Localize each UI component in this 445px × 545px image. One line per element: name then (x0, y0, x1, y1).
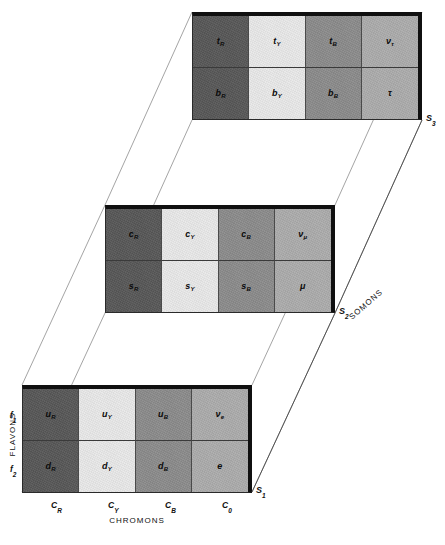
somons-axis-title: SOMONS (340, 281, 391, 327)
cell-label: bY (272, 89, 282, 98)
cell-nu-mu[interactable]: νμ (275, 209, 331, 261)
cell-b-Y[interactable]: bY (249, 68, 305, 120)
cell-c-R[interactable]: cR (106, 209, 162, 261)
somon-layer-1[interactable]: uR uY uB νe dR dY dB e (22, 385, 252, 493)
cell-label: dY (102, 462, 112, 471)
cell-label: dR (46, 462, 56, 471)
cell-label: dB (158, 462, 168, 471)
somon-marker-1: S1 (256, 485, 266, 497)
depth-diagonal (335, 120, 422, 313)
cell-label: cB (241, 230, 251, 239)
row-tick-f1: f1 (10, 410, 16, 422)
depth-diagonal (252, 313, 335, 492)
cell-c-Y[interactable]: cY (162, 209, 218, 261)
cell-b-B[interactable]: bB (306, 68, 362, 120)
cell-nu-tau[interactable]: ντ (362, 16, 418, 68)
cell-label: cR (129, 230, 139, 239)
cell-label: tB (329, 37, 337, 46)
somon-layer-2[interactable]: cR cY cB νμ sR sY sB μ (105, 205, 335, 313)
cell-nu-e[interactable]: νe (192, 389, 248, 441)
cell-label: νe (215, 410, 224, 419)
cell-s-Y[interactable]: sY (162, 261, 218, 313)
cell-s-B[interactable]: sB (219, 261, 275, 313)
connector-line (335, 120, 422, 313)
cell-label: τ (388, 89, 392, 98)
cell-label: μ (300, 282, 306, 291)
row-tick-f2: f2 (10, 464, 16, 476)
cell-label: e (217, 462, 222, 471)
cell-u-B[interactable]: uB (136, 389, 192, 441)
cell-t-R[interactable]: tR (193, 16, 249, 68)
cell-s-R[interactable]: sR (106, 261, 162, 313)
cell-label: uR (46, 410, 56, 419)
cell-label: sY (185, 282, 194, 291)
cell-electron[interactable]: e (192, 441, 248, 493)
cell-tau[interactable]: τ (362, 68, 418, 120)
cell-label: tR (217, 37, 225, 46)
cell-label: bB (328, 89, 338, 98)
cell-d-R[interactable]: dR (23, 441, 79, 493)
col-tick-CY: CY (108, 500, 118, 512)
cell-label: tY (273, 37, 280, 46)
cell-d-B[interactable]: dB (136, 441, 192, 493)
cell-mu[interactable]: μ (275, 261, 331, 313)
cell-label: sB (241, 282, 251, 291)
col-tick-CR: CR (51, 500, 62, 512)
connector-line (252, 313, 335, 492)
connector-line (105, 12, 192, 205)
cell-u-Y[interactable]: uY (79, 389, 135, 441)
cell-b-R[interactable]: bR (193, 68, 249, 120)
chromons-axis-title: CHROMONS (22, 516, 252, 525)
col-tick-CB: CB (165, 500, 176, 512)
cell-label: uB (158, 410, 168, 419)
cell-c-B[interactable]: cB (219, 209, 275, 261)
cell-label: sR (129, 282, 139, 291)
cell-label: bR (216, 89, 226, 98)
connector-line (22, 205, 105, 385)
cell-t-Y[interactable]: tY (249, 16, 305, 68)
figure-canvas: tR tY tB ντ bR bY bB τ cR cY cB νμ sR sY… (0, 0, 445, 545)
cell-label: νμ (298, 230, 307, 239)
cell-label: ντ (386, 37, 394, 46)
cell-u-R[interactable]: uR (23, 389, 79, 441)
cell-d-Y[interactable]: dY (79, 441, 135, 493)
cell-label: uY (102, 410, 112, 419)
somon-layer-3[interactable]: tR tY tB ντ bR bY bB τ (192, 12, 422, 120)
cell-t-B[interactable]: tB (306, 16, 362, 68)
somon-marker-3: S3 (426, 113, 436, 125)
col-tick-C0: C0 (222, 500, 232, 512)
cell-label: cY (185, 230, 194, 239)
